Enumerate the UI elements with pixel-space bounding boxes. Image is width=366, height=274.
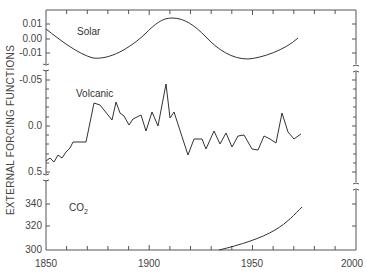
- x-tick-1950: 1950: [241, 258, 264, 269]
- solar-tick-2: 0.00: [23, 33, 43, 44]
- co2-tick-1: 340: [25, 198, 42, 209]
- y-axis-title: EXTERNAL FORCING FUNCTIONS: [5, 45, 16, 215]
- co2-series-line: [219, 207, 302, 250]
- solar-label: Solar: [77, 26, 101, 37]
- volcanic-tick-2: 0.0: [28, 120, 42, 131]
- solar-series-line: [46, 18, 298, 59]
- volcanic-tick-1: -0.05: [19, 74, 42, 85]
- y-ticks-right: [352, 24, 356, 226]
- x-tick-1850: 1850: [35, 258, 58, 269]
- solar-tick-1: 0.01: [23, 18, 43, 29]
- x-tick-2000: 2000: [341, 258, 364, 269]
- volcanic-tick-3: 0.5: [28, 166, 42, 177]
- co2-tick-2: 320: [25, 220, 42, 231]
- x-tick-1900: 1900: [138, 258, 161, 269]
- plot-frame: [43, 10, 359, 250]
- forcing-chart: 0.01 0.00 -0.01 -0.05 0.0 0.5 340 320 30…: [0, 0, 366, 274]
- volcanic-label: Volcanic: [76, 88, 113, 99]
- co2-label: CO2: [69, 202, 88, 215]
- co2-tick-3: 300: [25, 244, 42, 255]
- solar-tick-3: -0.01: [19, 47, 42, 58]
- y-ticks-left: [46, 24, 50, 226]
